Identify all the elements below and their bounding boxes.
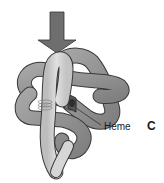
- panel-label: C: [147, 119, 156, 133]
- heme-label: Heme: [104, 121, 131, 132]
- protein-fold-diagram: [0, 0, 164, 183]
- down-arrow-icon: [38, 12, 76, 53]
